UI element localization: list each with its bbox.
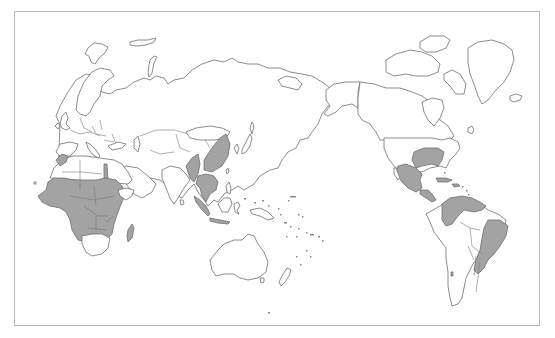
region-caribbean bbox=[436, 178, 452, 182]
iceland bbox=[510, 94, 522, 102]
novaya-zemlya bbox=[148, 56, 157, 77]
sulawesi bbox=[234, 202, 240, 214]
world-map bbox=[0, 0, 555, 338]
ireland bbox=[55, 123, 60, 129]
cape-verde bbox=[34, 182, 36, 184]
baffin-island bbox=[444, 70, 466, 94]
australia bbox=[210, 234, 268, 280]
region-hispaniola bbox=[452, 184, 460, 187]
tasmania bbox=[260, 278, 264, 283]
southern-africa bbox=[82, 234, 110, 256]
region-sub-saharan-africa bbox=[38, 178, 126, 242]
new-guinea bbox=[250, 208, 274, 220]
region-java bbox=[210, 218, 230, 224]
newfoundland bbox=[468, 126, 474, 134]
region-madagascar bbox=[127, 224, 134, 242]
ellesmere-island bbox=[420, 36, 450, 52]
svalbard bbox=[85, 43, 108, 64]
sri-lanka bbox=[180, 200, 184, 205]
borneo bbox=[218, 198, 232, 212]
franz-josef-land bbox=[130, 38, 156, 46]
new-zealand bbox=[279, 268, 291, 286]
region-chile-small bbox=[451, 272, 453, 276]
greenland bbox=[468, 40, 514, 104]
alaska bbox=[324, 82, 360, 116]
arctic-archipelago bbox=[386, 50, 440, 76]
region-central-america bbox=[420, 190, 436, 202]
